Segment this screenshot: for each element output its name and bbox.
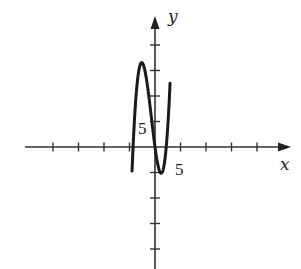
x-axis-arrow-icon bbox=[278, 143, 291, 152]
cubic-curve bbox=[132, 63, 170, 174]
y-tick-label-5: 5 bbox=[138, 119, 147, 138]
graph-figure: y x 5 5 bbox=[0, 0, 301, 269]
y-axis-label: y bbox=[167, 6, 178, 26]
graph-canvas: y x 5 5 bbox=[0, 0, 301, 269]
x-axis-label: x bbox=[280, 154, 290, 174]
y-axis-arrow-icon bbox=[151, 16, 160, 29]
x-tick-label-5: 5 bbox=[175, 160, 184, 179]
